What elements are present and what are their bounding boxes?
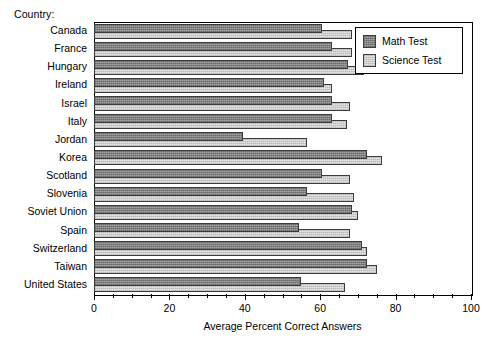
bar-math <box>94 78 324 87</box>
x-tick-minor <box>452 294 453 298</box>
y-axis-label: Hungary <box>0 61 90 72</box>
y-axis-label: Canada <box>0 25 90 36</box>
y-axis-label: Soviet Union <box>0 206 90 217</box>
legend: Math Test Science Test <box>355 27 463 74</box>
x-tick-minor <box>377 294 378 298</box>
bar-group <box>94 131 471 149</box>
y-axis-label: United States <box>0 279 90 290</box>
x-tick-minor <box>207 294 208 298</box>
x-tick-major <box>320 294 321 300</box>
bar-math <box>94 150 367 159</box>
x-tick-minor <box>301 294 302 298</box>
bar-math <box>94 223 299 232</box>
country-caption: Country: <box>14 8 54 20</box>
x-tick-minor <box>132 294 133 298</box>
y-axis-label: Korea <box>0 152 90 163</box>
bar-group <box>94 276 471 294</box>
bar-math <box>94 277 301 286</box>
y-axis-label: Slovenia <box>0 188 90 199</box>
bar-group <box>94 149 471 167</box>
bar-math <box>94 241 362 250</box>
y-axis-label: Switzerland <box>0 243 90 254</box>
x-tick-minor <box>264 294 265 298</box>
y-axis-label: Italy <box>0 116 90 127</box>
x-tick-minor <box>339 294 340 298</box>
x-tick-label: 100 <box>462 302 480 314</box>
y-axis-label: Taiwan <box>0 261 90 272</box>
bar-math <box>94 187 307 196</box>
x-axis-title: Average Percent Correct Answers <box>94 320 471 332</box>
x-tick-major <box>245 294 246 300</box>
legend-label-science: Science Test <box>382 54 441 67</box>
bar-math <box>94 114 332 123</box>
x-tick-minor <box>151 294 152 298</box>
x-tick-minor <box>358 294 359 298</box>
legend-label-math: Math Test <box>382 35 427 48</box>
x-tick-minor <box>433 294 434 298</box>
legend-swatch-science-icon <box>363 54 376 67</box>
bar-math <box>94 42 332 51</box>
x-axis-tick-labels: 020406080100 <box>0 302 491 316</box>
x-tick-minor <box>414 294 415 298</box>
x-tick-label: 80 <box>390 302 402 314</box>
y-axis-label: Ireland <box>0 79 90 90</box>
bar-math <box>94 60 348 69</box>
bar-group <box>94 258 471 276</box>
x-axis-ticks <box>94 294 472 301</box>
bar-math <box>94 259 367 268</box>
x-tick-major <box>471 294 472 300</box>
chart-root: Country: CanadaFranceHungaryIrelandIsrae… <box>0 0 491 342</box>
legend-swatch-math-icon <box>363 35 376 48</box>
bar-group <box>94 167 471 185</box>
x-tick-major <box>396 294 397 300</box>
y-axis-label: Israel <box>0 98 90 109</box>
y-axis-label: Jordan <box>0 134 90 145</box>
y-axis-label: France <box>0 43 90 54</box>
bar-group <box>94 221 471 239</box>
bar-group <box>94 203 471 221</box>
x-tick-major <box>169 294 170 300</box>
x-tick-label: 40 <box>239 302 251 314</box>
bar-group <box>94 76 471 94</box>
bar-math <box>94 169 322 178</box>
y-axis-label: Scotland <box>0 170 90 181</box>
x-tick-label: 60 <box>314 302 326 314</box>
x-tick-label: 20 <box>164 302 176 314</box>
bar-math <box>94 96 332 105</box>
bar-group <box>94 185 471 203</box>
x-tick-minor <box>188 294 189 298</box>
bar-math <box>94 132 243 141</box>
x-tick-label: 0 <box>91 302 97 314</box>
x-tick-minor <box>283 294 284 298</box>
x-tick-minor <box>226 294 227 298</box>
bar-math <box>94 205 352 214</box>
x-tick-minor <box>113 294 114 298</box>
bar-group <box>94 113 471 131</box>
bar-group <box>94 240 471 258</box>
bar-group <box>94 95 471 113</box>
y-axis-label: Spain <box>0 225 90 236</box>
x-tick-major <box>94 294 95 300</box>
bar-math <box>94 24 322 33</box>
y-axis-labels: CanadaFranceHungaryIrelandIsraelItalyJor… <box>0 22 90 294</box>
